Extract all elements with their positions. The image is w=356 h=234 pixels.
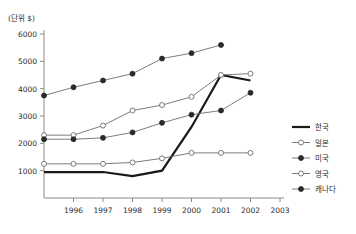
- x-tick-label: 2000: [182, 206, 201, 215]
- series-line-4: [44, 93, 251, 139]
- legend-label-0: 한국: [315, 123, 329, 132]
- data-point: [160, 56, 165, 61]
- y-tick-label: 2000: [18, 139, 37, 148]
- legend-marker-2: [299, 156, 304, 161]
- data-point: [160, 120, 165, 125]
- data-point: [219, 73, 224, 78]
- y-tick-label: 3000: [18, 112, 37, 121]
- data-point: [219, 42, 224, 47]
- data-point: [71, 161, 76, 166]
- y-tick-label: 6000: [18, 30, 37, 39]
- data-point: [101, 161, 106, 166]
- legend-marker-3: [299, 171, 304, 176]
- data-point: [130, 160, 135, 165]
- legend-marker-1: [299, 140, 304, 145]
- data-point: [101, 78, 106, 83]
- data-point: [101, 135, 106, 140]
- data-point: [101, 123, 106, 128]
- data-point: [130, 108, 135, 113]
- data-point: [219, 108, 224, 113]
- legend-label-3: 영국: [315, 169, 329, 179]
- legend-label-2: 미국: [315, 154, 329, 163]
- data-point: [189, 94, 194, 99]
- x-tick-label: 2003: [270, 206, 289, 215]
- data-point: [71, 85, 76, 90]
- series-line-1: [44, 74, 251, 136]
- data-point: [42, 93, 47, 98]
- chart-canvas: (단위 $)1000200030004000500060001996199719…: [0, 0, 356, 234]
- data-point: [130, 130, 135, 135]
- data-point: [248, 71, 253, 76]
- data-point: [189, 112, 194, 117]
- data-point: [130, 71, 135, 76]
- data-point: [248, 90, 253, 95]
- line-chart: (단위 $)1000200030004000500060001996199719…: [0, 0, 356, 234]
- x-tick-label: 2001: [211, 206, 230, 215]
- data-point: [160, 156, 165, 161]
- y-tick-label: 5000: [18, 57, 37, 66]
- data-point: [189, 51, 194, 56]
- series-line-0: [44, 75, 251, 176]
- unit-label: (단위 $): [8, 13, 35, 23]
- x-tick-label: 1999: [152, 206, 171, 215]
- data-point: [160, 103, 165, 108]
- data-point: [189, 150, 194, 155]
- legend-label-1: 일본: [315, 139, 329, 148]
- legend-label-4: 캐나다: [315, 185, 336, 194]
- data-point: [42, 161, 47, 166]
- legend-marker-4: [299, 187, 304, 192]
- x-tick-label: 1996: [64, 206, 83, 215]
- y-tick-label: 4000: [18, 85, 37, 94]
- x-tick-label: 2002: [241, 206, 260, 215]
- data-point: [42, 137, 47, 142]
- data-point: [248, 150, 253, 155]
- data-point: [71, 137, 76, 142]
- x-tick-label: 1997: [93, 206, 112, 215]
- series-line-2: [44, 45, 221, 96]
- y-tick-label: 1000: [18, 167, 37, 176]
- data-point: [219, 150, 224, 155]
- x-tick-label: 1998: [123, 206, 142, 215]
